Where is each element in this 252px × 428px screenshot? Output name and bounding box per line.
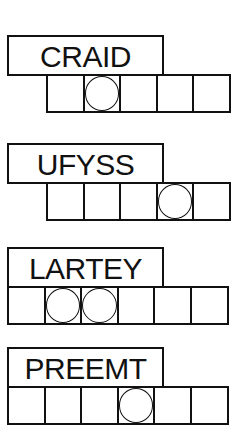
scrambled-word: PREEMT: [24, 354, 146, 384]
answer-cell-4[interactable]: [156, 74, 195, 113]
answer-cell-6[interactable]: [190, 286, 229, 325]
circle-marker-icon: [82, 288, 117, 323]
answer-cell-4-circled[interactable]: [117, 386, 156, 425]
scrambled-word: UFYSS: [37, 150, 135, 180]
jumble-puzzle-3: LARTEY: [0, 247, 252, 327]
answer-cell-4[interactable]: [117, 286, 156, 325]
circle-marker-icon: [46, 288, 81, 323]
answer-cell-6[interactable]: [190, 386, 229, 425]
answer-cell-5[interactable]: [192, 182, 231, 221]
answer-cell-3[interactable]: [119, 182, 158, 221]
answer-cell-4-circled[interactable]: [156, 182, 195, 221]
answer-cell-1[interactable]: [7, 286, 46, 325]
answer-cell-3[interactable]: [119, 74, 158, 113]
answer-cell-5[interactable]: [192, 74, 231, 113]
scrambled-word: CRAID: [40, 42, 131, 72]
scrambled-word: LARTEY: [29, 254, 142, 284]
scrambled-word-box: LARTEY: [7, 247, 164, 288]
answer-cells: [7, 286, 229, 325]
answer-cells: [7, 386, 229, 425]
answer-cells: [46, 74, 231, 113]
answer-cell-5[interactable]: [153, 386, 192, 425]
answer-cell-2[interactable]: [44, 386, 83, 425]
circle-marker-icon: [158, 184, 193, 219]
answer-cell-1[interactable]: [7, 386, 46, 425]
jumble-puzzle-1: CRAID: [0, 35, 252, 115]
scrambled-word-box: UFYSS: [7, 143, 164, 184]
answer-cell-2[interactable]: [83, 182, 122, 221]
answer-cell-5[interactable]: [153, 286, 192, 325]
answer-cell-2-circled[interactable]: [83, 74, 122, 113]
circle-marker-icon: [85, 76, 120, 111]
circle-marker-icon: [119, 388, 154, 423]
answer-cells: [46, 182, 231, 221]
answer-cell-1[interactable]: [46, 182, 85, 221]
answer-cell-2-circled[interactable]: [44, 286, 83, 325]
scrambled-word-box: PREEMT: [7, 347, 164, 388]
jumble-puzzle-2: UFYSS: [0, 143, 252, 223]
jumble-puzzle-4: PREEMT: [0, 347, 252, 427]
answer-cell-3-circled[interactable]: [80, 286, 119, 325]
answer-cell-1[interactable]: [46, 74, 85, 113]
answer-cell-3[interactable]: [80, 386, 119, 425]
scrambled-word-box: CRAID: [7, 35, 164, 76]
